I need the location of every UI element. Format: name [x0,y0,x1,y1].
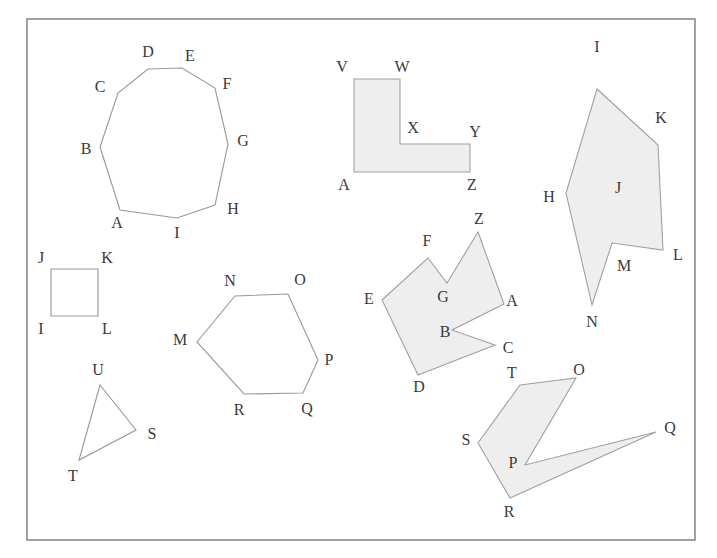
vertex-label-star-polygon-F: F [423,232,432,249]
vertex-label-star-polygon-C: C [503,339,514,356]
vertex-label-hexagon-N: N [224,272,236,289]
vertex-label-hexagon-O: O [294,271,306,288]
vertex-label-star-polygon-E: E [364,290,374,307]
vertex-label-arrow-concave-L: L [673,246,683,263]
vertex-label-l-shape-A: A [338,176,350,193]
vertex-label-l-shape-W: W [394,58,410,75]
vertex-label-nonagon-B: B [81,140,92,157]
vertex-label-hexagon-Q: Q [301,400,313,417]
vertex-label-arrow-concave-H: H [543,188,555,205]
vertex-label-arrow-concave-I: I [594,38,599,55]
nonagon-outline [100,68,228,218]
vertex-label-l-shape-V: V [336,58,348,75]
vertex-label-star-polygon-Z: Z [474,210,484,227]
vertex-label-triangle-U: U [92,361,104,378]
vertex-label-nonagon-F: F [223,75,232,92]
vertex-label-star-polygon-G: G [437,288,449,305]
vertex-label-star-polygon-B: B [440,323,451,340]
square-outline [51,269,98,316]
vertex-label-hexagon-M: M [173,331,187,348]
hexagon-outline [197,294,318,394]
vertex-label-spike-polygon-S: S [462,431,471,448]
vertex-label-l-shape-Z: Z [467,176,477,193]
vertex-label-spike-polygon-Q: Q [664,419,676,436]
vertex-label-nonagon-I: I [174,224,179,241]
vertex-label-nonagon-G: G [237,132,249,149]
vertex-label-arrow-concave-M: M [617,257,631,274]
vertex-label-triangle-T: T [68,467,78,484]
vertex-label-spike-polygon-O: O [573,361,585,378]
vertex-label-nonagon-H: H [227,200,239,217]
vertex-label-arrow-concave-K: K [655,109,667,126]
polygon-figures-svg: ABCDEFGHIVWXYZAIKLMNHJJKLIUSTMNOPQRZFGED… [0,0,717,558]
vertex-label-nonagon-C: C [95,78,106,95]
vertex-label-l-shape-X: X [407,119,419,136]
vertex-label-square-L: L [102,320,112,337]
vertex-label-star-polygon-A: A [506,292,518,309]
vertex-label-hexagon-P: P [325,351,334,368]
arrow-concave-filled [566,89,663,305]
vertex-label-spike-polygon-P: P [509,454,518,471]
vertex-label-l-shape-Y: Y [469,123,481,140]
vertex-label-nonagon-E: E [185,47,195,64]
vertex-label-hexagon-R: R [234,401,245,418]
vertex-label-arrow-concave-J: J [615,179,621,196]
vertex-label-square-K: K [101,249,113,266]
vertex-label-triangle-S: S [148,425,157,442]
vertex-label-nonagon-D: D [142,43,154,60]
triangle-outline [79,385,136,460]
vertex-label-nonagon-A: A [111,214,123,231]
vertex-label-arrow-concave-N: N [586,313,598,330]
vertex-label-square-I: I [38,320,43,337]
spike-polygon-filled [478,378,656,498]
figures-group [51,68,663,498]
vertex-label-spike-polygon-T: T [507,364,517,381]
vertex-label-square-J: J [38,249,44,266]
vertex-label-spike-polygon-R: R [504,503,515,520]
vertex-label-star-polygon-D: D [413,378,425,395]
diagram-canvas: ABCDEFGHIVWXYZAIKLMNHJJKLIUSTMNOPQRZFGED… [0,0,717,558]
